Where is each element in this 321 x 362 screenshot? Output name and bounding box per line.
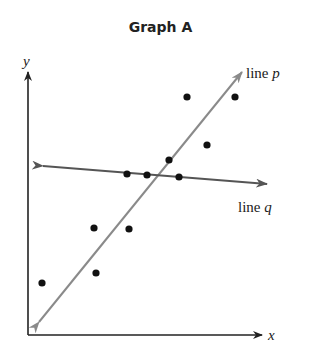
labels: xyline pline q: [21, 53, 280, 343]
axes: [28, 72, 262, 335]
line-q: [43, 166, 267, 184]
data-point: [123, 170, 130, 177]
data-point: [175, 173, 182, 180]
data-point: [143, 171, 150, 178]
x-axis-label: x: [267, 327, 275, 343]
data-points: [38, 93, 238, 286]
data-point: [125, 225, 132, 232]
trend-lines: [39, 72, 267, 322]
line-p: [39, 72, 242, 322]
line-q-label: line q: [238, 199, 272, 215]
data-point: [92, 269, 99, 276]
data-point: [90, 224, 97, 231]
y-axis-label: y: [21, 53, 30, 69]
data-point: [38, 279, 45, 286]
data-point: [165, 156, 172, 163]
scatter-plot: xyline pline q: [0, 0, 321, 362]
data-point: [203, 141, 210, 148]
data-point: [183, 93, 190, 100]
line-p-label: line p: [246, 65, 280, 81]
data-point: [231, 93, 238, 100]
